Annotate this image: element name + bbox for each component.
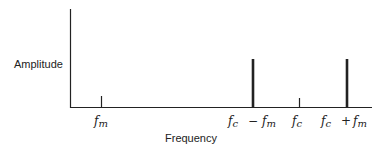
x-axis-label: Frequency xyxy=(165,132,217,144)
tick-label-fc-plus-fm: fc + fm xyxy=(320,114,367,129)
svg-text:fm: fm xyxy=(93,114,108,129)
svg-text:fc: fc xyxy=(320,114,331,129)
y-axis-label: Amplitude xyxy=(14,58,63,70)
tick-label-fc: fc xyxy=(291,114,302,129)
svg-text:+: + xyxy=(341,114,351,128)
svg-text:fc: fc xyxy=(227,114,238,129)
svg-text:−: − xyxy=(248,114,258,128)
tick-label-fc-minus-fm: fc − fm xyxy=(227,114,276,129)
spectrum-diagram: Amplitude fm fc − fm fc fc + fm Frequenc… xyxy=(0,0,383,153)
svg-text:fc: fc xyxy=(291,114,302,129)
tick-label-fm: fm xyxy=(93,114,108,129)
svg-text:fm: fm xyxy=(261,114,276,129)
svg-text:fm: fm xyxy=(352,114,367,129)
